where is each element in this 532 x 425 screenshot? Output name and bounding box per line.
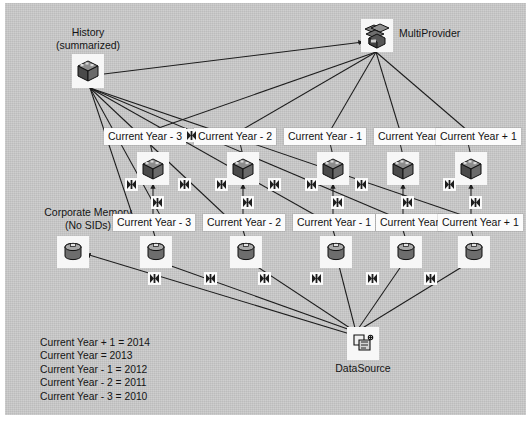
- cube-icon: [320, 156, 346, 182]
- transformation-icon-c0a[interactable]: [125, 178, 138, 191]
- transformation-icon: [269, 179, 280, 190]
- multiprovider-glyph: [363, 22, 391, 50]
- transformation-icon-m2[interactable]: [331, 196, 344, 209]
- legend-line-4: Current Year - 3 = 2010: [40, 390, 150, 403]
- cube-icon-4[interactable]: [455, 152, 487, 185]
- history-cube-icon[interactable]: [72, 54, 104, 88]
- cube-icon-1[interactable]: [227, 152, 259, 185]
- transformation-icon: [470, 197, 481, 208]
- transformation-icon-m1[interactable]: [241, 196, 254, 209]
- transformation-icon: [259, 273, 270, 284]
- transformation-icon: [242, 197, 253, 208]
- cube-label-4[interactable]: Current Year + 1: [436, 128, 521, 145]
- cube-icon: [75, 58, 101, 84]
- dso-label-3[interactable]: Current Year: [376, 214, 443, 231]
- dso-cylinder-icon: [324, 241, 348, 263]
- transformation-icon-d2[interactable]: [258, 272, 271, 285]
- cube-icon: [230, 156, 256, 182]
- cube-label-2[interactable]: Current Year - 1: [284, 128, 366, 145]
- history-label: History (summarized): [46, 26, 130, 52]
- dso-label-4[interactable]: Current Year + 1: [438, 214, 523, 231]
- legend-line-2: Current Year - 1 = 2012: [40, 363, 150, 376]
- transformation-icon-m4[interactable]: [469, 196, 482, 209]
- transformation-icon-d4[interactable]: [366, 272, 379, 285]
- multiprovider-label: MultiProvider: [399, 27, 460, 40]
- diagram-canvas: History (summarized): [0, 0, 532, 425]
- cube-icon: [458, 156, 484, 182]
- legend: Current Year + 1 = 2014 Current Year = 2…: [40, 336, 150, 403]
- dso-label-2[interactable]: Current Year - 1: [293, 214, 375, 231]
- legend-line-0: Current Year + 1 = 2014: [40, 336, 150, 349]
- cube-label-3[interactable]: Current Year: [374, 128, 441, 145]
- transformation-icon-c2a[interactable]: [305, 178, 318, 191]
- datasource-glyph: [350, 331, 376, 357]
- transformation-icon: [367, 273, 378, 284]
- datasource-icon[interactable]: [347, 327, 379, 360]
- transformation-icon-m0[interactable]: [151, 196, 164, 209]
- transformation-icon: [216, 179, 227, 190]
- history-label-line1: History: [72, 26, 105, 38]
- legend-line-1: Current Year = 2013: [40, 349, 150, 362]
- transformation-icon: [152, 197, 163, 208]
- transformation-icon: [179, 179, 190, 190]
- dso-icon-3[interactable]: [390, 236, 422, 268]
- cube-label-0[interactable]: Current Year - 3: [104, 128, 186, 145]
- transformation-icon-m3[interactable]: [401, 196, 414, 209]
- cube-label-1[interactable]: Current Year - 2: [194, 128, 276, 145]
- dso-icon-1[interactable]: [230, 236, 262, 268]
- dso-icon-0[interactable]: [140, 236, 172, 268]
- dso-icon-2[interactable]: [320, 236, 352, 268]
- dso-label-0[interactable]: Current Year - 3: [113, 214, 195, 231]
- datasource-label: DataSource: [330, 362, 396, 375]
- transformation-icon: [186, 130, 197, 141]
- legend-line-3: Current Year - 2 = 2011: [40, 376, 150, 389]
- transformation-icon-c3a[interactable]: [355, 178, 368, 191]
- dso-cylinder-icon: [234, 241, 258, 263]
- dso-cylinder-icon: [394, 241, 418, 263]
- transformation-icon: [311, 273, 322, 284]
- transformation-icon: [205, 273, 216, 284]
- transformation-icon-d0[interactable]: [148, 272, 161, 285]
- dso-cylinder-icon: [462, 241, 486, 263]
- transformation-icon-c0b[interactable]: [178, 178, 191, 191]
- corporate-memory-dso-icon[interactable]: [57, 236, 89, 268]
- transformation-icon: [444, 179, 455, 190]
- transformation-icon-c4a[interactable]: [443, 178, 456, 191]
- cube-icon: [390, 156, 416, 182]
- transformation-icon: [425, 273, 436, 284]
- multiprovider-icon[interactable]: [361, 19, 393, 52]
- transformation-icon: [149, 273, 160, 284]
- corporate-memory-line2: (No SIDs): [65, 219, 111, 231]
- transformation-icon: [126, 179, 137, 190]
- transformation-icon-d5[interactable]: [424, 272, 437, 285]
- transformation-icon-c1a[interactable]: [215, 178, 228, 191]
- transformation-icon-d1[interactable]: [204, 272, 217, 285]
- dso-cylinder-icon: [61, 241, 85, 263]
- cube-icon: [140, 156, 166, 182]
- dso-cylinder-icon: [144, 241, 168, 263]
- transformation-icon-c1b[interactable]: [268, 178, 281, 191]
- cube-icon-2[interactable]: [317, 152, 349, 185]
- cube-icon-3[interactable]: [387, 152, 419, 185]
- transformation-icon: [402, 197, 413, 208]
- dso-icon-4[interactable]: [458, 236, 490, 268]
- history-label-line2: (summarized): [56, 39, 120, 51]
- transformation-icon: [332, 197, 343, 208]
- transformation-icon: [306, 179, 317, 190]
- dso-label-1[interactable]: Current Year - 2: [203, 214, 285, 231]
- transformation-icon-d3[interactable]: [310, 272, 323, 285]
- transformation-icon-top[interactable]: [185, 129, 198, 142]
- transformation-icon: [356, 179, 367, 190]
- cube-icon-0[interactable]: [137, 152, 169, 185]
